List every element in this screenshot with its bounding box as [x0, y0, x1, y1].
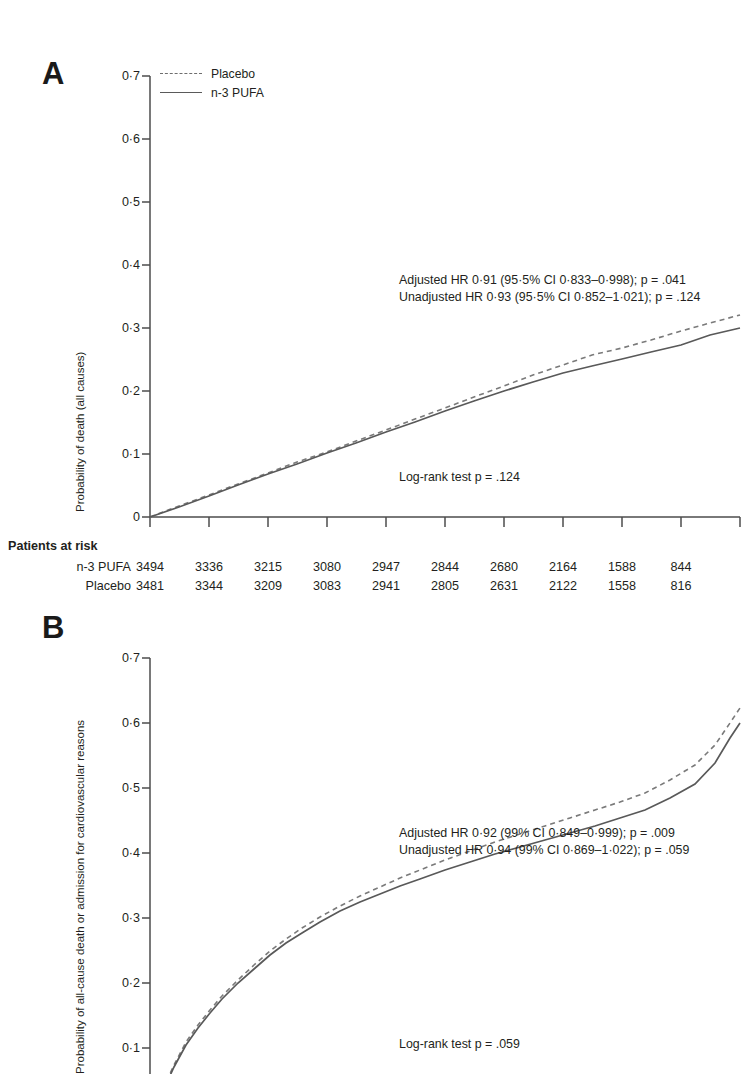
risk-cell: 1588 — [593, 560, 651, 574]
panel-b: B Probability of all-cause death or admi… — [0, 600, 753, 1074]
panel-a-y-axis-label: Probability of death (all causes) — [74, 352, 86, 512]
risk-cell: 816 — [652, 579, 710, 593]
risk-cell: 3215 — [239, 560, 297, 574]
panel-a-hr-unadjusted: Unadjusted HR 0·93 (95·5% CI 0·852–1·021… — [399, 289, 700, 306]
ytick-b-0.5: 0·5 — [94, 781, 140, 795]
ytick-b-0.2: 0·2 — [94, 976, 140, 990]
legend-item-placebo: Placebo — [160, 64, 264, 83]
ytick-b-0.1: 0·1 — [94, 1041, 140, 1055]
panel-b-y-axis-label: Probability of all-cause death or admiss… — [74, 720, 86, 1074]
ytick-a-0.2: 0·2 — [94, 384, 140, 398]
ytick-a-0.5: 0·5 — [94, 195, 140, 209]
risk-cell: 2631 — [475, 579, 533, 593]
panel-b-hr-unadjusted: Unadjusted HR 0·94 (99% CI 0·869–1·022);… — [399, 842, 689, 859]
patients-at-risk-title: Patients at risk — [8, 539, 98, 553]
panel-a-letter: A — [42, 56, 64, 92]
risk-cell: 3080 — [298, 560, 356, 574]
risk-cell: 2844 — [416, 560, 474, 574]
ytick-b-0.4: 0·4 — [94, 846, 140, 860]
panel-a-legend: Placebo n-3 PUFA — [160, 64, 264, 102]
panel-a-hr-annotation: Adjusted HR 0·91 (95·5% CI 0·833–0·998);… — [399, 272, 700, 306]
ytick-b-0.6: 0·6 — [94, 716, 140, 730]
ytick-b-0.7: 0·7 — [94, 651, 140, 665]
risk-cell: 3494 — [121, 560, 179, 574]
legend-label-n3-pufa: n-3 PUFA — [211, 86, 264, 100]
panel-a: A Probability of death (all causes) 0 0·… — [0, 0, 753, 600]
ytick-a-0.1: 0·1 — [94, 447, 140, 461]
risk-cell: 3083 — [298, 579, 356, 593]
panel-a-hr-adjusted: Adjusted HR 0·91 (95·5% CI 0·833–0·998);… — [399, 272, 700, 289]
legend-label-placebo: Placebo — [211, 67, 255, 81]
panel-b-logrank-text: Log-rank test p = .059 — [399, 1037, 520, 1051]
panel-b-hr-adjusted: Adjusted HR 0·92 (99% CI 0·849–0·999); p… — [399, 825, 689, 842]
risk-cell: 844 — [652, 560, 710, 574]
ytick-a-0: 0 — [94, 510, 140, 524]
risk-cell: 2164 — [534, 560, 592, 574]
legend-swatch-dashed-icon — [160, 73, 202, 74]
ytick-a-0.3: 0·3 — [94, 321, 140, 335]
risk-row-label-n3-pufa: n-3 PUFA — [0, 560, 131, 574]
risk-cell: 3481 — [121, 579, 179, 593]
ytick-a-0.7: 0·7 — [94, 69, 140, 83]
legend-item-n3-pufa: n-3 PUFA — [160, 83, 264, 102]
risk-cell: 3209 — [239, 579, 297, 593]
legend-swatch-solid-icon — [160, 92, 202, 93]
ytick-a-0.6: 0·6 — [94, 132, 140, 146]
risk-cell: 2947 — [357, 560, 415, 574]
panel-a-logrank-text: Log-rank test p = .124 — [399, 470, 520, 484]
risk-cell: 1558 — [593, 579, 651, 593]
ytick-a-0.4: 0·4 — [94, 258, 140, 272]
risk-cell: 2122 — [534, 579, 592, 593]
risk-row-label-placebo: Placebo — [0, 579, 131, 593]
panel-b-letter: B — [42, 610, 64, 646]
risk-cell: 2941 — [357, 579, 415, 593]
panel-b-hr-annotation: Adjusted HR 0·92 (99% CI 0·849–0·999); p… — [399, 825, 689, 859]
risk-cell: 3336 — [180, 560, 238, 574]
risk-cell: 2805 — [416, 579, 474, 593]
ytick-b-0.3: 0·3 — [94, 911, 140, 925]
risk-cell: 2680 — [475, 560, 533, 574]
risk-cell: 3344 — [180, 579, 238, 593]
panel-b-plot — [140, 645, 745, 1074]
